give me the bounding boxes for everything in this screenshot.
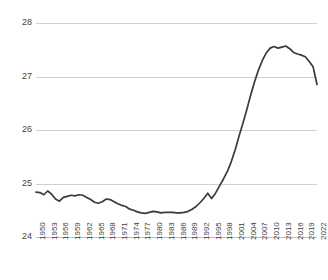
x-axis-tick-label: 1977 (144, 222, 152, 240)
x-axis-tick-label: 1974 (133, 222, 141, 240)
x-axis-tick-label: 1971 (121, 222, 129, 240)
series-line (36, 46, 317, 213)
x-axis-tick-label: 1953 (51, 222, 59, 240)
x-axis-tick-label: 2004 (250, 222, 258, 240)
x-axis-tick-label: 2010 (273, 222, 281, 240)
x-axis-tick-label: 2016 (297, 222, 305, 240)
x-axis-labels: 1950195319561959196219651968197119741977… (36, 240, 317, 280)
x-axis-tick-label: 2019 (308, 222, 316, 240)
x-axis-tick-label: 1992 (203, 222, 211, 240)
x-axis-tick-label: 1983 (168, 222, 176, 240)
x-axis-tick-label: 1995 (215, 222, 223, 240)
x-axis-tick-label: 1968 (109, 222, 117, 240)
x-axis-tick-label: 1986 (180, 222, 188, 240)
x-axis-tick-label: 2013 (285, 222, 293, 240)
x-axis-tick-label: 1998 (226, 222, 234, 240)
x-axis-tick-label: 1962 (86, 222, 94, 240)
x-axis-tick-label: 2022 (320, 222, 328, 240)
x-axis-tick-label: 2007 (261, 222, 269, 240)
x-axis-tick-label: 1965 (98, 222, 106, 240)
x-axis-tick-label: 2001 (238, 222, 246, 240)
x-axis-tick-label: 1950 (39, 222, 47, 240)
x-axis-tick-label: 1956 (62, 222, 70, 240)
x-axis-tick-label: 1980 (156, 222, 164, 240)
x-axis-tick-label: 1989 (191, 222, 199, 240)
x-axis-tick-label: 1959 (74, 222, 82, 240)
